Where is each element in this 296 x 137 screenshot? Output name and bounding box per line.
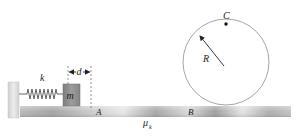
point-a-label: A bbox=[95, 107, 102, 117]
friction-mu: μ bbox=[142, 117, 148, 128]
vertical-loop bbox=[183, 19, 269, 105]
physics-diagram: k m d A B μ k C R bbox=[0, 0, 296, 137]
spring bbox=[19, 89, 63, 99]
wall bbox=[8, 82, 19, 118]
point-c-dot bbox=[224, 22, 227, 25]
point-b-label: B bbox=[188, 107, 194, 117]
spring-constant-label: k bbox=[40, 72, 45, 83]
track bbox=[20, 106, 291, 117]
radius-label: R bbox=[202, 53, 209, 64]
friction-subscript: k bbox=[149, 124, 152, 130]
compression-label: d bbox=[77, 66, 83, 77]
friction-label: μ k bbox=[142, 117, 152, 130]
mass-label: m bbox=[67, 90, 74, 101]
point-c-label: C bbox=[223, 10, 230, 21]
